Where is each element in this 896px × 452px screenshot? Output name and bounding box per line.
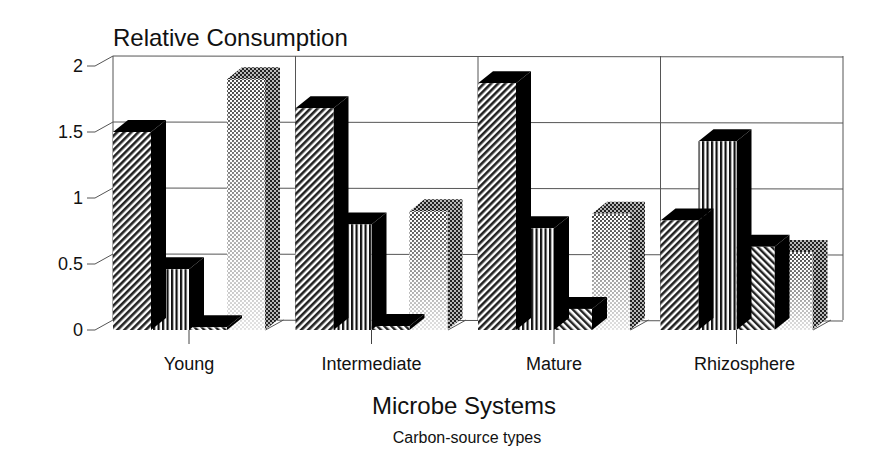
x-axis-title: Microbe Systems (372, 392, 556, 419)
x-tick-label: Mature (526, 354, 582, 374)
bar-chart: 00.511.52YoungIntermediateMatureRhizosph… (0, 0, 896, 452)
y-tick-label: 0.5 (58, 254, 83, 274)
y-tick-label: 0 (73, 320, 83, 340)
y-tick-label: 2 (73, 56, 83, 76)
bar (113, 120, 166, 330)
bar (227, 67, 280, 330)
x-tick-label: Young (164, 354, 214, 374)
x-tick-label: Rhizosphere (694, 354, 795, 374)
bar (410, 199, 463, 330)
y-tick-label: 1.5 (58, 122, 83, 142)
legend-title: Carbon-source types (393, 429, 542, 446)
y-tick-label: 1 (73, 188, 83, 208)
x-tick-label: Intermediate (321, 354, 421, 374)
bars (113, 67, 828, 330)
chart-title: Relative Consumption (113, 24, 348, 51)
bar (478, 71, 531, 330)
bar (296, 96, 349, 330)
bar (661, 208, 714, 330)
